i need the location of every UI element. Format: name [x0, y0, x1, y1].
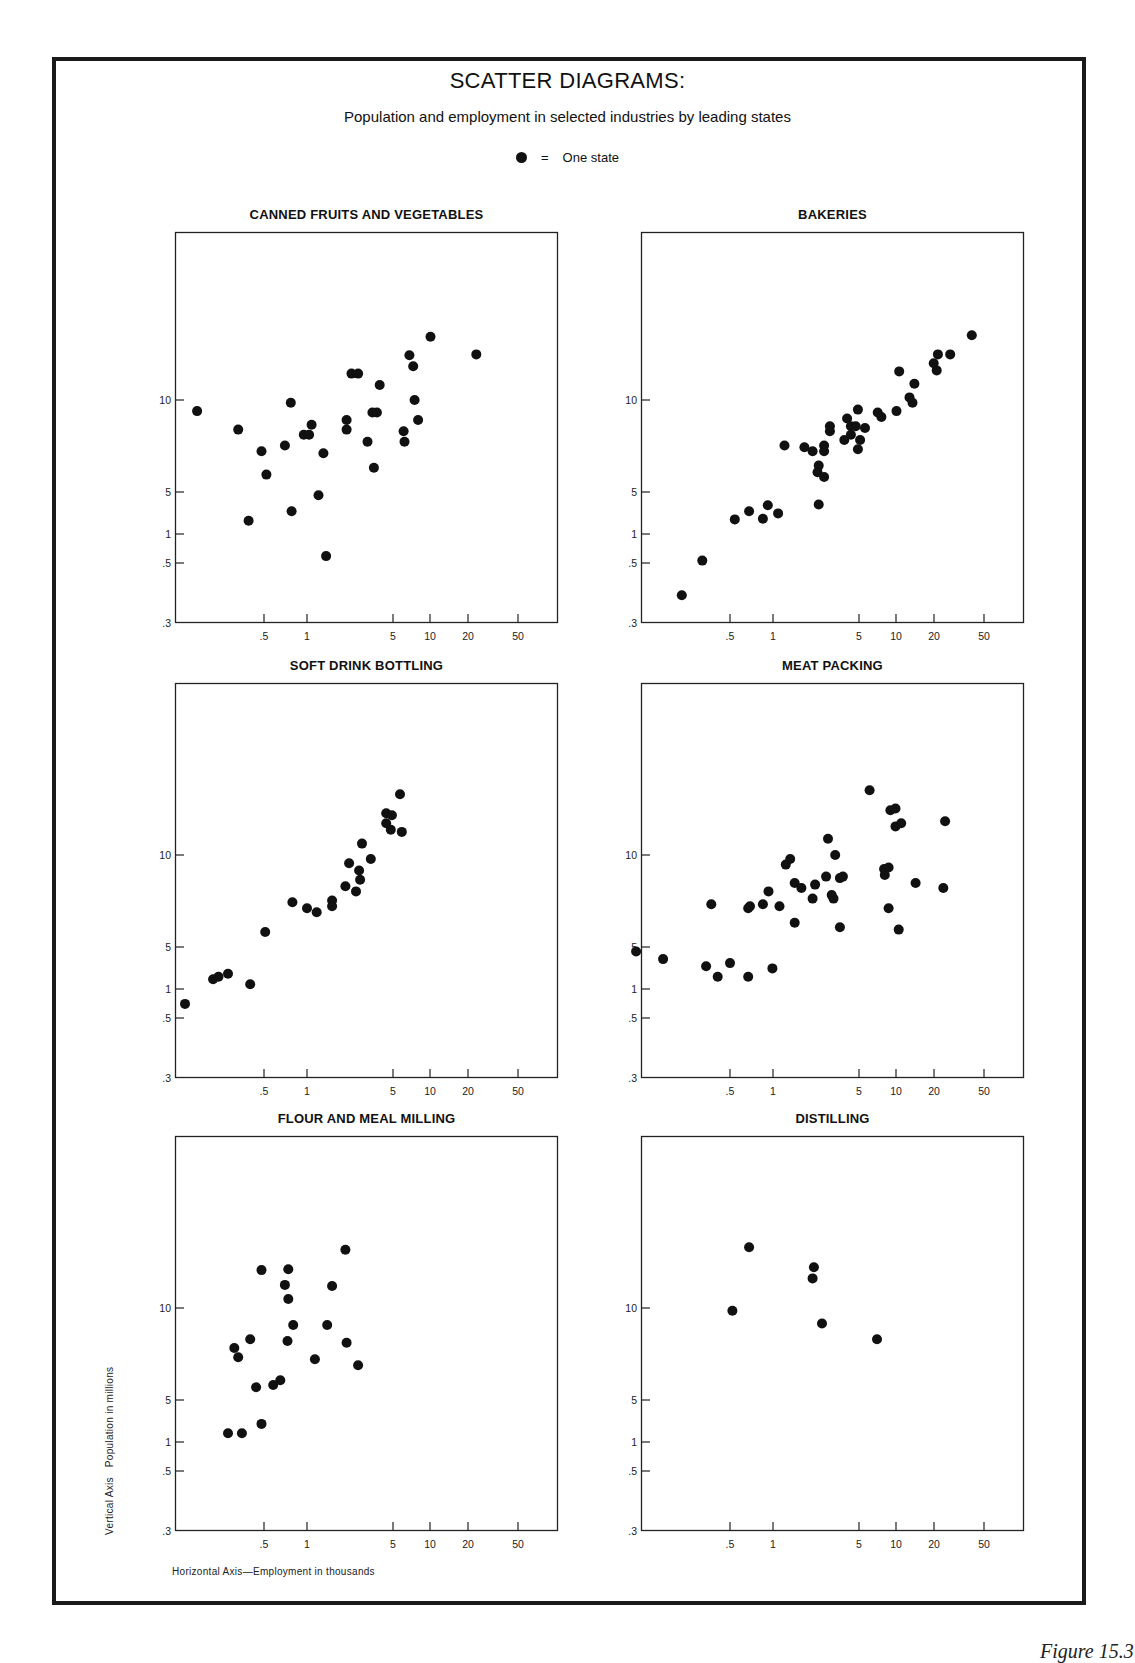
state-point: [387, 810, 397, 820]
state-point: [321, 551, 331, 561]
state-point: [283, 1336, 293, 1346]
x-tick-label: 10: [424, 630, 436, 642]
state-point: [214, 972, 224, 982]
state-point: [288, 1320, 298, 1330]
scatter-plot-distilling: .3.51510.515102050: [641, 1136, 1024, 1531]
state-point: [891, 804, 901, 814]
state-point: [884, 863, 894, 873]
state-point: [932, 365, 942, 375]
vertical-axis-title: Vertical Axis: [104, 1477, 115, 1535]
state-point: [697, 556, 707, 566]
state-point: [825, 426, 835, 436]
x-tick-label: .5: [260, 1538, 269, 1550]
scatter-plot-flour: .3.51510.515102050: [175, 1136, 558, 1531]
state-point: [745, 901, 755, 911]
scatter-plot-meat-packing: .3.51510.515102050: [641, 683, 1024, 1078]
state-point: [808, 446, 818, 456]
x-tick-label: 1: [304, 630, 310, 642]
state-point: [302, 903, 312, 913]
x-tick-label: 1: [304, 1085, 310, 1097]
state-point: [744, 1242, 754, 1252]
state-point: [261, 470, 271, 480]
x-tick-label: 10: [424, 1538, 436, 1550]
y-tick-label: 5: [631, 1394, 637, 1406]
state-point: [286, 398, 296, 408]
state-point: [872, 1334, 882, 1344]
state-point: [785, 854, 795, 864]
state-point: [829, 894, 839, 904]
state-point: [375, 380, 385, 390]
x-tick-label: 5: [856, 630, 862, 642]
state-point: [400, 437, 410, 447]
y-tick-label: .5: [162, 1012, 171, 1024]
state-point: [823, 834, 833, 844]
y-tick-label: .5: [162, 1465, 171, 1477]
y-tick-label: .5: [628, 1465, 637, 1477]
panel-title-flour: FLOUR AND MEAL MILLING: [175, 1111, 558, 1126]
panel-title-bakeries: BAKERIES: [641, 207, 1024, 222]
y-tick-label: 1: [165, 983, 171, 995]
state-point: [322, 1320, 332, 1330]
y-tick-label: 10: [625, 1302, 637, 1314]
state-point: [727, 1306, 737, 1316]
y-tick-label: .3: [162, 617, 171, 629]
state-point: [275, 1375, 285, 1385]
state-point: [257, 446, 267, 456]
state-point: [744, 506, 754, 516]
legend: =One state: [0, 150, 1135, 165]
x-tick-label: 50: [512, 1538, 524, 1550]
state-point: [853, 405, 863, 415]
state-point: [257, 1265, 267, 1275]
y-tick-label: 1: [165, 1436, 171, 1448]
state-point: [713, 972, 723, 982]
state-point: [758, 514, 768, 524]
state-point: [342, 1338, 352, 1348]
state-point: [853, 444, 863, 454]
state-point: [730, 514, 740, 524]
state-point: [894, 925, 904, 935]
y-tick-label: .3: [628, 617, 637, 629]
legend-equals: =: [541, 150, 549, 165]
vertical-axis-desc: Population in millions: [104, 1367, 115, 1468]
x-tick-label: 20: [462, 1085, 474, 1097]
x-tick-label: 50: [512, 1085, 524, 1097]
state-point: [808, 1273, 818, 1283]
x-tick-label: 5: [390, 1538, 396, 1550]
state-point: [896, 818, 906, 828]
state-point: [426, 332, 436, 342]
y-tick-label: 10: [625, 849, 637, 861]
x-tick-label: .5: [726, 1085, 735, 1097]
state-point: [327, 901, 337, 911]
state-point: [780, 441, 790, 451]
x-tick-label: 10: [890, 1085, 902, 1097]
state-point: [855, 435, 865, 445]
figure-caption: Figure 15.3: [1040, 1640, 1134, 1663]
state-point: [865, 785, 875, 795]
state-point: [280, 1280, 290, 1290]
x-tick-label: 5: [856, 1538, 862, 1550]
x-tick-label: 20: [462, 630, 474, 642]
y-tick-label: 10: [159, 1302, 171, 1314]
state-point: [835, 922, 845, 932]
state-point: [244, 516, 254, 526]
x-tick-label: 1: [770, 630, 776, 642]
state-point: [287, 506, 297, 516]
state-point: [938, 883, 948, 893]
state-point: [355, 875, 365, 885]
state-point: [245, 979, 255, 989]
x-tick-label: 20: [462, 1538, 474, 1550]
state-point: [471, 349, 481, 359]
state-point: [790, 918, 800, 928]
x-tick-label: .5: [726, 630, 735, 642]
x-tick-label: 20: [928, 1085, 940, 1097]
state-point: [280, 441, 290, 451]
state-point: [257, 1419, 267, 1429]
state-dot-icon: [516, 152, 527, 163]
state-point: [967, 330, 977, 340]
state-point: [340, 881, 350, 891]
plot-frame: [176, 1137, 558, 1531]
x-tick-label: 1: [304, 1538, 310, 1550]
state-point: [340, 1245, 350, 1255]
state-point: [223, 969, 233, 979]
state-point: [353, 1360, 363, 1370]
